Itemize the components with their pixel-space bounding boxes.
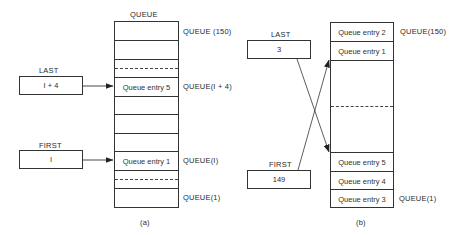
last-arrow-b <box>297 59 329 152</box>
pointer-arrows <box>0 0 463 235</box>
